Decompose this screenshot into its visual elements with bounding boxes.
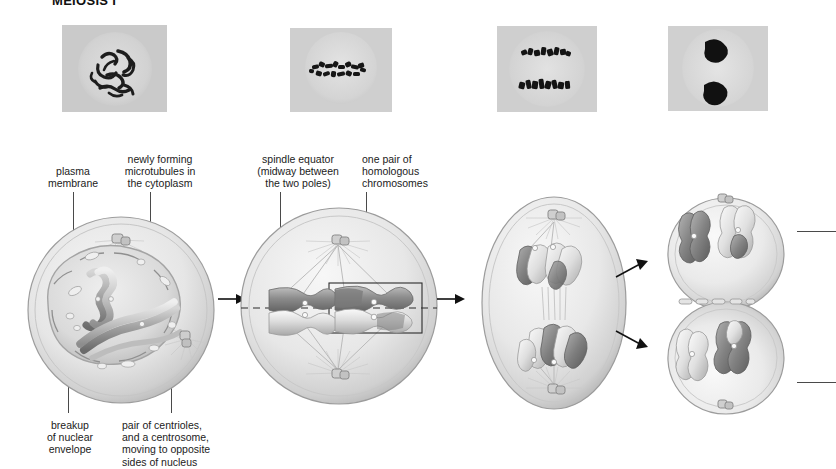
right-leader-upper <box>797 231 836 232</box>
cell-prophase-i <box>14 212 234 408</box>
micrograph-telophase-i <box>668 26 768 111</box>
micrograph-anaphase-i <box>497 26 597 112</box>
cell-anaphase-i <box>458 192 650 414</box>
micrograph-metaphase-i <box>290 28 392 112</box>
micrograph-prophase-i <box>62 25 167 112</box>
meiosis-i-figure: MEIOSIS I <box>0 0 836 469</box>
label-newly-forming-microtubules: newly forming microtubules in the cytopl… <box>112 153 208 190</box>
label-centriole-pair: pair of centrioles, and a centrosome, mo… <box>122 419 252 468</box>
label-nuclear-envelope-breakup: breakup of nuclear envelope <box>36 419 104 456</box>
label-plasma-membrane: plasma membrane <box>38 165 108 189</box>
right-leader-lower <box>797 382 836 383</box>
label-spindle-equator: spindle equator (midway between the two … <box>243 153 353 190</box>
figure-title: MEIOSIS I <box>52 0 116 8</box>
label-homologous-pair: one pair of homologous chromosomes <box>362 153 472 190</box>
cell-telophase-i <box>646 192 806 414</box>
cell-metaphase-i <box>239 205 441 411</box>
